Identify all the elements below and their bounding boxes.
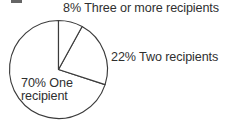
pie-slices [9, 20, 107, 118]
pie-label-three-or-more-recipients: 8% Three or more recipients [63, 2, 219, 15]
pie-label-two-recipients: 22% Two recipients [111, 51, 218, 64]
pie-chart-figure: 8% Three or more recipients 22% Two reci… [0, 0, 235, 131]
pie-chart-graphic [0, 0, 235, 131]
pie-label-one-recipient: 70% One recipient [21, 77, 73, 103]
